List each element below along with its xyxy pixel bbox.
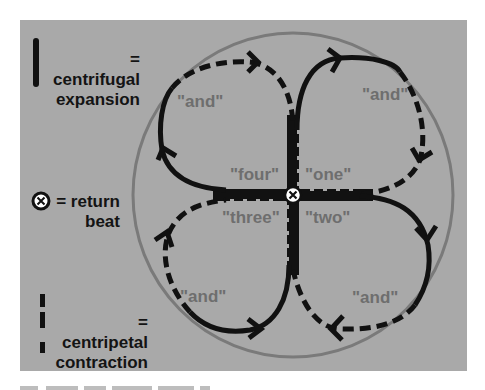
- legend-contraction-line1: = centripetal: [51, 313, 148, 353]
- beat-label-four: "four": [230, 165, 279, 184]
- dashed-line-legend-icon: [40, 294, 45, 353]
- x-circle-legend-icon: [33, 193, 49, 209]
- return-beat-marker: [285, 187, 301, 203]
- cropped-caption: [20, 381, 320, 390]
- beat-label-and-bottom-left: "and": [180, 287, 226, 306]
- beat-label-and-top-left: "and": [177, 92, 223, 111]
- arrow-head: [331, 316, 343, 340]
- legend-expansion-line2: expansion: [44, 90, 140, 110]
- beat-label-and-top-right: "and": [362, 85, 408, 104]
- solid-line-legend-icon: [33, 38, 39, 87]
- beat-label-two: "two": [305, 208, 350, 227]
- legend-expansion-line1: = centrifugal: [44, 50, 140, 90]
- legend-expansion-label: = centrifugal expansion: [44, 50, 140, 110]
- legend-return-line1: = return: [54, 192, 120, 212]
- beat-label-three: "three": [222, 208, 280, 227]
- legend-contraction-label: = centripetal contraction: [51, 313, 148, 373]
- beat-label-and-bottom-right: "and": [352, 288, 398, 307]
- legend-return-line2: beat: [54, 212, 120, 232]
- beat-label-one: "one": [305, 165, 351, 184]
- legend-return-beat-label: = return beat: [54, 192, 120, 232]
- legend-contraction-line2: contraction: [51, 353, 148, 373]
